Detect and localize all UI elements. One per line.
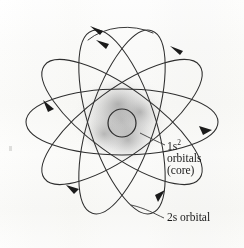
label-core-line2: orbitals (167, 152, 202, 164)
arrowhead-right (199, 126, 212, 135)
arrowhead-left (43, 100, 54, 112)
label-core-line1: 1s2 (167, 140, 202, 152)
figure-canvas: 1s2 orbitals (core) 2s orbital (0, 0, 244, 248)
label-core-orbitals: 1s2 orbitals (core) (167, 140, 202, 177)
label-2s-orbital: 2s orbital (167, 211, 210, 223)
arrowhead-top-right (170, 46, 183, 55)
arrowhead-top-left-inner (96, 40, 109, 49)
arrowhead-bottom-left (66, 185, 79, 194)
label-core-symbol: 1s (167, 140, 177, 152)
label-core-superscript: 2 (177, 138, 181, 147)
label-core-line3: (core) (167, 164, 202, 176)
scan-speck (9, 146, 12, 151)
